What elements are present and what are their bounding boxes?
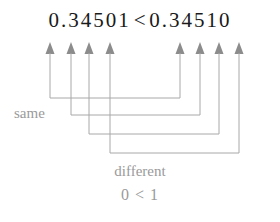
label-comparison: 0 < 1	[0, 186, 280, 204]
arrow-right-digit-3	[176, 42, 185, 98]
arrow-right-digit-5	[215, 42, 224, 134]
arrow-left-digit-4	[67, 42, 76, 115]
arrow-right-digit-4	[196, 42, 205, 115]
label-different: different	[0, 163, 280, 180]
connector-group	[50, 98, 239, 153]
arrow-right-digit-1	[235, 42, 244, 153]
arrow-left-digit-5	[85, 42, 94, 134]
label-same: same	[14, 105, 45, 122]
arrow-left-digit-3	[46, 42, 55, 98]
decimal-comparison-diagram: 0.34501<0.34510	[0, 0, 280, 222]
arrow-group-right	[176, 42, 244, 153]
